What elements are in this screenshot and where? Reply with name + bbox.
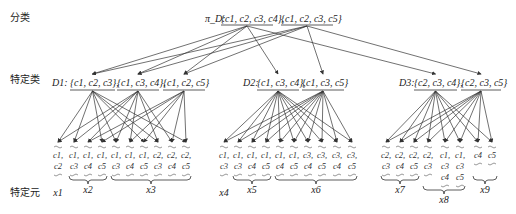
tilde-mark xyxy=(112,146,120,148)
level-label-specific-class: 特定类 xyxy=(10,73,40,85)
tilde-mark xyxy=(220,146,228,148)
tilde-mark xyxy=(488,146,496,148)
tilde-mark xyxy=(318,174,326,176)
tilde-mark xyxy=(290,146,298,148)
edge-root-to-class xyxy=(93,26,248,74)
class-name: D1: xyxy=(51,77,68,88)
root-set: {c1, c2, c3, c4}, xyxy=(221,13,284,24)
group-label-x7: x7 xyxy=(394,184,405,195)
tilde-mark xyxy=(348,174,356,176)
element-item: c1, xyxy=(111,150,121,160)
tilde-mark xyxy=(396,146,404,148)
edge-class-to-element xyxy=(400,91,436,142)
element-item: c3, xyxy=(317,150,327,160)
tilde-mark xyxy=(98,174,106,176)
tilde-mark xyxy=(154,174,162,176)
tilde-mark xyxy=(318,146,326,148)
element-item: c4 xyxy=(248,161,257,171)
element-item: c2, xyxy=(167,150,177,160)
tilde-mark xyxy=(441,146,449,148)
element-item: c3, xyxy=(303,150,313,160)
tilde-mark xyxy=(276,174,284,176)
edge-class-to-element xyxy=(322,91,323,142)
element-item: c2, xyxy=(423,150,433,160)
classification-diagram: 分类特定类特定元π_D:{c1, c2, c3, c4},{c1, c2, c3… xyxy=(0,0,516,214)
tilde-mark xyxy=(234,174,242,176)
element-item: c4 xyxy=(126,161,135,171)
tilde-mark xyxy=(474,163,482,165)
element-item: c1, xyxy=(247,150,257,160)
element-item: c1, xyxy=(53,150,63,160)
class-set: {c1, c3, c5} xyxy=(302,77,348,88)
element-item: c2, xyxy=(395,150,405,160)
element-item: c1, xyxy=(440,150,450,160)
element-item: c1, xyxy=(455,150,465,160)
level-label-specific-element: 特定元 xyxy=(10,186,40,198)
group-brace xyxy=(381,176,419,184)
tilde-mark xyxy=(54,146,62,148)
element-item: c2 xyxy=(54,161,63,171)
edge-class-to-element xyxy=(88,91,138,142)
element-item: c3 xyxy=(382,161,390,171)
element-item: c3 xyxy=(441,161,449,171)
tilde-mark xyxy=(98,146,106,148)
tilde-mark xyxy=(410,146,418,148)
tilde-mark xyxy=(348,146,356,148)
edge-class-to-element xyxy=(428,91,481,142)
tilde-mark xyxy=(126,146,134,148)
tilde-mark xyxy=(488,163,496,165)
element-item: c5 xyxy=(348,161,356,171)
group-label-x8: x8 xyxy=(438,194,448,205)
element-item: c5 xyxy=(488,150,496,160)
tilde-mark xyxy=(182,174,190,176)
element-item: c4 xyxy=(304,161,313,171)
tilde-mark xyxy=(304,174,312,176)
element-item: c5 xyxy=(318,161,326,171)
level-label-classification: 分类 xyxy=(10,11,30,23)
tilde-mark xyxy=(168,146,176,148)
edge-class-to-element xyxy=(58,91,138,142)
element-item: c1, xyxy=(97,150,107,160)
tilde-mark xyxy=(126,174,134,176)
tilde-mark xyxy=(304,146,312,148)
group-brace xyxy=(275,176,357,184)
edge-class-to-element xyxy=(323,91,337,142)
element-item: c1, xyxy=(83,150,93,160)
tilde-mark xyxy=(182,146,190,148)
edge-class-to-element xyxy=(436,91,493,142)
class-set: {c1, c3, c4}, xyxy=(117,77,166,88)
edge-class-to-element xyxy=(414,91,436,142)
tilde-mark xyxy=(456,185,464,187)
root-set: {c1, c2, c3, c5} xyxy=(281,13,342,24)
edge-class-to-element xyxy=(130,91,138,142)
edge-root-to-class xyxy=(93,26,308,74)
element-item: c4 xyxy=(333,161,342,171)
tilde-mark xyxy=(441,185,449,187)
group-brace xyxy=(233,176,271,184)
edge-class-to-element xyxy=(58,91,93,142)
tilde-mark xyxy=(262,174,270,176)
edge-class-to-element xyxy=(278,91,280,142)
edge-class-to-element xyxy=(386,91,436,142)
element-item: c1, xyxy=(261,150,271,160)
element-item: c5 xyxy=(262,161,270,171)
tilde-mark xyxy=(382,174,390,176)
element-item: c5 xyxy=(182,161,190,171)
element-item: c5 xyxy=(98,161,106,171)
element-item: c3 xyxy=(70,161,78,171)
element-item: c1, xyxy=(125,150,135,160)
element-item: c5 xyxy=(456,172,464,182)
tilde-mark xyxy=(154,146,162,148)
tilde-mark xyxy=(248,146,256,148)
tilde-mark xyxy=(276,146,284,148)
tilde-mark xyxy=(474,146,482,148)
tilde-mark xyxy=(70,146,78,148)
group-label-x9: x9 xyxy=(479,184,489,195)
edge-class-to-element xyxy=(428,91,436,142)
tilde-mark xyxy=(424,146,432,148)
tilde-mark xyxy=(140,174,148,176)
group-brace xyxy=(69,176,107,184)
class-set: {c2, c3, c4}, xyxy=(414,77,463,88)
edge-class-to-element xyxy=(481,91,492,142)
edge-root-to-class xyxy=(138,26,247,74)
